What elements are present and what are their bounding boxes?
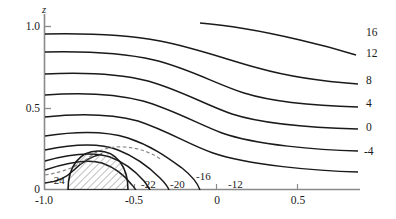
contour-label-16: 16 xyxy=(366,26,378,38)
x-tick-label-minus0.5: -0.5 xyxy=(125,194,143,206)
contour-label-12: 12 xyxy=(366,47,378,59)
y-tick-label-0.5: 0.5 xyxy=(26,102,41,114)
contour-line-16 xyxy=(200,23,356,55)
contour-label-minus24: -24 xyxy=(50,174,65,186)
plot-canvas: z 1.0 0.5 0 -1.0 -0.5 0 0.5 16 12 8 4 0 … xyxy=(0,0,396,219)
contour-label-minus22: -22 xyxy=(141,178,156,190)
contour-label-4: 4 xyxy=(366,97,372,109)
y-axis-label: z xyxy=(41,4,46,15)
contour-label-minus12: -12 xyxy=(228,178,243,190)
contour-label-minus16: -16 xyxy=(196,170,211,182)
contour-label-minus20: -20 xyxy=(170,178,185,190)
x-tick-label-0: 0 xyxy=(214,194,220,206)
contour-plot-figure: z 1.0 0.5 0 -1.0 -0.5 0 0.5 16 12 8 4 0 … xyxy=(0,0,396,219)
y-tick-label-1.0: 1.0 xyxy=(26,20,41,32)
x-tick-label-minus1.0: -1.0 xyxy=(35,194,53,206)
contour-label-8: 8 xyxy=(366,74,372,86)
x-tick-label-0.5: 0.5 xyxy=(291,194,306,206)
hatched-bump-obstacle xyxy=(68,151,128,190)
contour-lines-group xyxy=(45,23,358,190)
contour-label-0: 0 xyxy=(366,121,372,133)
contour-label-minus4: -4 xyxy=(364,145,374,157)
contour-line-4 xyxy=(45,73,358,129)
